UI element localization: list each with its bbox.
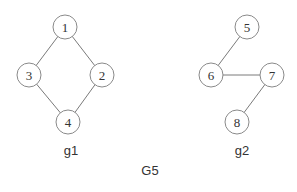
node-8: 8 xyxy=(225,110,249,134)
node-2: 2 xyxy=(90,63,114,87)
node-label: 6 xyxy=(208,68,215,83)
node-5: 5 xyxy=(235,15,259,39)
node-label: 3 xyxy=(26,68,33,83)
node-4: 4 xyxy=(56,110,80,134)
edges-layer xyxy=(29,27,272,122)
node-label: 1 xyxy=(62,20,69,35)
graph-diagram: 12345678 g1 g2 G5 xyxy=(0,0,297,192)
node-label: 2 xyxy=(99,68,106,83)
node-6: 6 xyxy=(199,63,223,87)
graph-label-g2: g2 xyxy=(235,143,249,158)
diagram-title: G5 xyxy=(141,163,158,178)
node-3: 3 xyxy=(17,63,41,87)
node-label: 7 xyxy=(269,68,276,83)
labels-layer: g1 g2 G5 xyxy=(64,143,249,178)
node-label: 8 xyxy=(234,115,241,130)
node-label: 5 xyxy=(244,20,251,35)
node-label: 4 xyxy=(65,115,72,130)
node-1: 1 xyxy=(53,15,77,39)
node-7: 7 xyxy=(260,63,284,87)
graph-label-g1: g1 xyxy=(64,143,78,158)
